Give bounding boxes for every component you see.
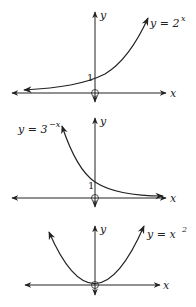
graph-parabola: y x y = x 2 [25, 223, 187, 295]
curve-2-pow-x [24, 18, 148, 90]
curve-x-squared [49, 226, 144, 284]
x-axis-label: x [163, 279, 170, 292]
function-graphs: y x 1 y = 2 x y x 1 y = 3 −x y x y = x 2 [0, 0, 196, 307]
equation-exponent: −x [49, 120, 61, 129]
equation-exponent: 2 [181, 225, 187, 234]
y-axis-label: y [99, 223, 107, 236]
equation-label: y = 2 [149, 17, 179, 30]
curve-3-pow-neg-x [62, 126, 163, 196]
graph-exponential-decay: y x 1 y = 3 −x [12, 115, 177, 207]
graph-exponential-growth: y x 1 y = 2 x [12, 9, 186, 102]
intercept-label: 1 [88, 180, 94, 191]
equation-exponent: x [181, 14, 186, 23]
equation-label: y = x [146, 228, 176, 241]
equation-label: y = 3 [17, 123, 47, 136]
intercept-label: 1 [87, 72, 93, 83]
y-axis-label: y [99, 115, 107, 128]
x-axis-label: x [170, 192, 177, 205]
y-axis-label: y [99, 9, 107, 22]
x-axis-label: x [170, 87, 177, 100]
